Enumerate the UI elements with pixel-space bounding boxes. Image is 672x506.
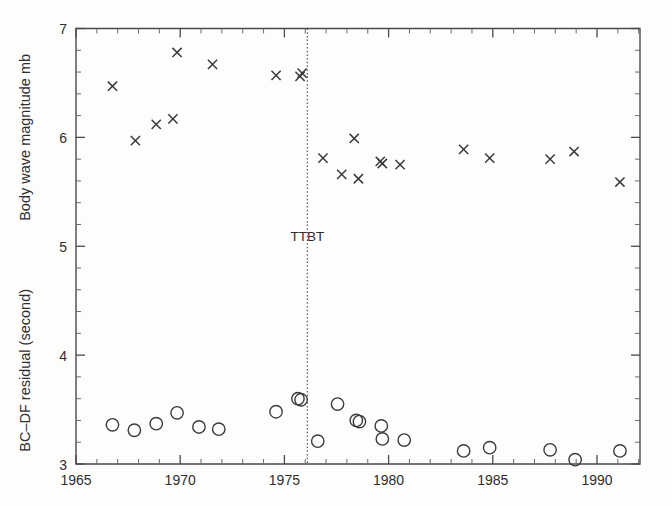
x-tick-label: 1990 <box>581 472 612 488</box>
scatter-chart: 196519701975198019851990 34567 TTBT Body… <box>0 0 672 506</box>
axis-titles: Body wave magnitude mb BC–DF residual (s… <box>17 54 33 452</box>
data-point-cross <box>459 145 468 154</box>
y-axis-minor-ticks <box>76 50 640 442</box>
x-axis-tick-labels: 196519701975198019851990 <box>60 472 612 488</box>
x-tick-label: 1965 <box>60 472 91 488</box>
data-point-circle <box>150 418 162 430</box>
data-point-cross <box>131 136 140 145</box>
data-point-cross <box>168 114 177 123</box>
data-point-circle <box>483 441 495 453</box>
data-point-cross <box>208 60 217 69</box>
data-point-circle <box>331 398 343 410</box>
series-body-wave-magnitude <box>108 48 625 187</box>
x-tick-label: 1970 <box>165 472 196 488</box>
data-point-circle <box>213 423 225 435</box>
y-tick-label: 3 <box>59 457 67 473</box>
data-point-circle <box>375 420 387 432</box>
data-point-circle <box>398 434 410 446</box>
data-point-circle <box>193 421 205 433</box>
x-axis-minor-ticks <box>97 29 639 465</box>
ttbt-event-label: TTBT <box>290 229 324 244</box>
data-point-circle <box>312 435 324 447</box>
y-axis-title-lower: BC–DF residual (second) <box>17 289 33 452</box>
data-point-circle <box>614 445 626 457</box>
y-tick-label: 4 <box>59 348 67 364</box>
x-tick-label: 1980 <box>373 472 404 488</box>
data-point-circle <box>376 433 388 445</box>
data-point-circle <box>457 445 469 457</box>
y-tick-label: 5 <box>59 239 67 255</box>
data-point-circle <box>128 424 140 436</box>
y-axis-major-ticks <box>76 29 640 465</box>
data-point-cross <box>298 69 307 78</box>
data-point-cross <box>615 177 624 186</box>
series-bc-df-residual <box>106 392 626 465</box>
data-point-cross <box>354 174 363 183</box>
y-tick-label: 6 <box>59 130 67 146</box>
chart-page: 196519701975198019851990 34567 TTBT Body… <box>0 0 672 506</box>
plot-frame <box>76 29 640 465</box>
y-axis-tick-labels: 34567 <box>59 21 67 473</box>
data-point-cross <box>172 48 181 57</box>
data-point-cross <box>108 82 117 91</box>
data-point-cross <box>337 170 346 179</box>
x-tick-label: 1975 <box>269 472 300 488</box>
y-tick-label: 7 <box>59 21 67 37</box>
data-point-circle <box>544 444 556 456</box>
data-point-cross <box>546 155 555 164</box>
data-point-cross <box>295 72 304 81</box>
data-point-cross <box>271 71 280 80</box>
data-point-cross <box>152 120 161 129</box>
y-axis-title-upper: Body wave magnitude mb <box>17 54 33 221</box>
data-point-cross <box>395 160 404 169</box>
data-point-cross <box>318 153 327 162</box>
data-point-cross <box>569 147 578 156</box>
data-point-circle <box>270 406 282 418</box>
data-point-circle <box>171 407 183 419</box>
data-point-circle <box>106 419 118 431</box>
data-point-cross <box>485 153 494 162</box>
data-point-cross <box>350 134 359 143</box>
x-tick-label: 1985 <box>477 472 508 488</box>
